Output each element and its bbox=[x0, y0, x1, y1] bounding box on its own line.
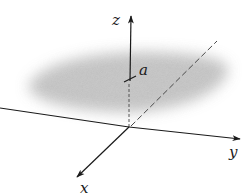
z-axis-label: z bbox=[111, 11, 120, 29]
x-axis bbox=[77, 127, 129, 177]
plane-region bbox=[0, 30, 244, 130]
a-label: a bbox=[139, 61, 148, 79]
y-axis-label: y bbox=[228, 143, 238, 161]
coordinate-diagram: z a y x bbox=[0, 0, 244, 195]
x-axis-label: x bbox=[80, 179, 89, 195]
